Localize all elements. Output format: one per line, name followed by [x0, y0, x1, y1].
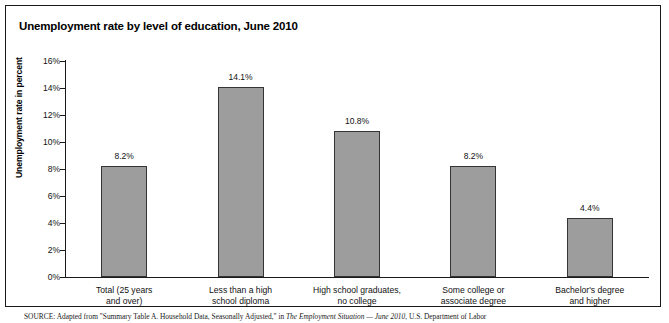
y-axis-tick-label: 0%	[32, 273, 60, 282]
source-text-part2: , U.S. Department of Labor	[405, 313, 486, 321]
chart-title: Unemployment rate by level of education,…	[19, 20, 298, 32]
source-label: SOURCE:	[24, 313, 55, 321]
y-axis-tick-label: 4%	[32, 219, 60, 228]
x-axis-category-label-line: no college	[292, 296, 422, 307]
y-axis-tick-mark	[60, 223, 65, 224]
y-axis-tick-mark	[60, 115, 65, 116]
y-axis-tick-labels: 16%14%12%10%8%6%4%2%0%	[29, 0, 60, 323]
source-publication: The Employment Situation — June 2010	[286, 313, 405, 321]
x-axis-category-label-line: and over)	[59, 296, 189, 307]
x-axis-category-label-line: and higher	[525, 296, 655, 307]
x-axis-category-label: High school graduates,no college	[292, 285, 422, 306]
bar	[567, 218, 613, 277]
y-axis-tick-mark	[60, 250, 65, 251]
bar	[101, 166, 147, 277]
bar-value-label: 10.8%	[317, 117, 397, 126]
x-axis-category-label: Some college orassociate degree	[408, 285, 538, 306]
y-axis-tick-label: 16%	[32, 57, 60, 66]
source-note: SOURCE: Adapted from "Summary Table A. H…	[24, 313, 664, 321]
x-axis-category-label-line: Less than a high	[176, 285, 306, 296]
y-axis-tick-mark	[60, 169, 65, 170]
y-axis-tick-label: 6%	[32, 192, 60, 201]
x-axis-category-label: Less than a highschool diploma	[176, 285, 306, 306]
x-axis-category-label-line: High school graduates,	[292, 285, 422, 296]
chart-figure: Unemployment rate by level of education,…	[0, 0, 669, 323]
y-axis-tick-mark	[60, 277, 65, 278]
bar	[450, 166, 496, 277]
x-axis-category-label: Total (25 yearsand over)	[59, 285, 189, 306]
x-axis-line	[65, 277, 649, 278]
bar	[334, 131, 380, 277]
y-axis-tick-label: 10%	[32, 138, 60, 147]
x-axis-category-label-line: Bachelor's degree	[525, 285, 655, 296]
y-axis-tick-mark	[60, 196, 65, 197]
bar-value-label: 4.4%	[550, 204, 630, 213]
x-axis-category-label-line: associate degree	[408, 296, 538, 307]
y-axis-tick-label: 14%	[32, 84, 60, 93]
y-axis-tick-label: 12%	[32, 111, 60, 120]
bar-value-label: 8.2%	[433, 152, 513, 161]
x-axis-category-label: Bachelor's degreeand higher	[525, 285, 655, 306]
bar	[218, 87, 264, 277]
y-axis-tick-mark	[60, 61, 65, 62]
bar-value-label: 8.2%	[84, 152, 164, 161]
y-axis-title: Unemployment rate in percent	[14, 68, 24, 178]
source-text-part1: Adapted from "Summary Table A. Household…	[55, 313, 286, 321]
y-axis-tick-mark	[60, 142, 65, 143]
bar-value-label: 14.1%	[201, 73, 281, 82]
x-axis-category-label-line: school diploma	[176, 296, 306, 307]
y-axis-tick-mark	[60, 88, 65, 89]
x-axis-category-label-line: Some college or	[408, 285, 538, 296]
y-axis-tick-label: 8%	[32, 165, 60, 174]
plot-area: 8.2%14.1%10.8%8.2%4.4%	[66, 61, 648, 277]
x-axis-category-label-line: Total (25 years	[59, 285, 189, 296]
y-axis-tick-label: 2%	[32, 246, 60, 255]
